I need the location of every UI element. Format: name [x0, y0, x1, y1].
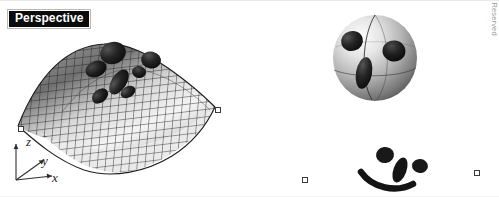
shaded-sphere: [333, 15, 417, 101]
world-axis-indicator: z y x: [8, 136, 66, 188]
control-point[interactable]: [18, 126, 24, 132]
control-point[interactable]: [474, 170, 480, 176]
axis-label-x: x: [52, 170, 58, 186]
face-feature-blobs: [361, 146, 429, 189]
viewport-title-label[interactable]: Perspective: [7, 9, 91, 29]
control-point[interactable]: [302, 177, 308, 183]
perspective-viewport[interactable]: Perspective z y x © 2014 Cengage Learnin…: [0, 0, 499, 197]
axis-label-y: y: [42, 153, 48, 169]
surface-feature-blobs: [83, 39, 163, 107]
scene-geometry: [0, 0, 499, 197]
copyright-notice: © 2014 Cengage Learning® All Rights Rese…: [488, 0, 499, 28]
control-point[interactable]: [215, 107, 221, 113]
viewport-bottom-border: [0, 196, 499, 197]
axis-label-z: z: [26, 134, 31, 150]
viewport-top-border: [0, 0, 499, 1]
